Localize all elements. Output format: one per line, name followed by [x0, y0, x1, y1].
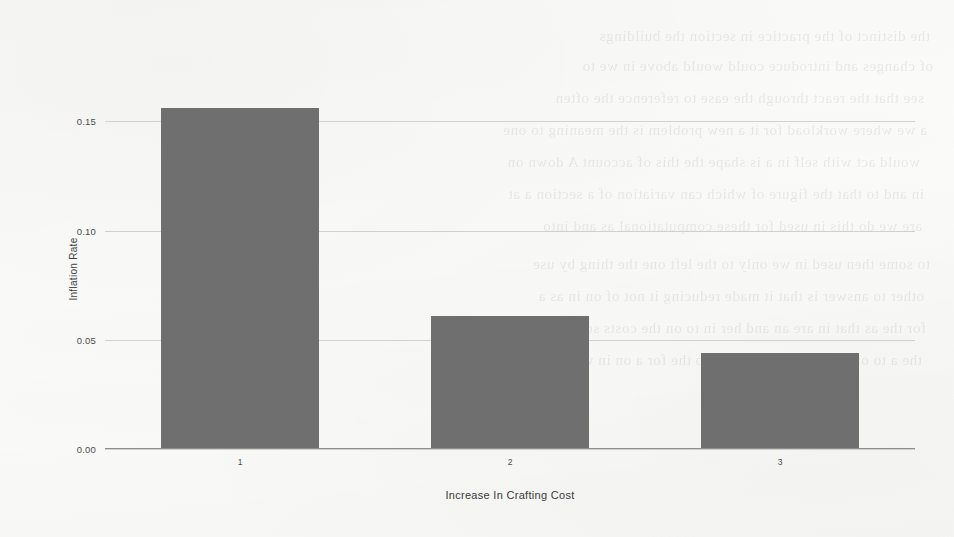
x-tick-label: 2 — [508, 457, 513, 467]
y-tick-label: 0.15 — [77, 116, 96, 127]
y-tick-label: 0.05 — [77, 334, 96, 345]
x-axis-line — [105, 448, 915, 449]
y-axis-title: Inflation Rate — [68, 237, 79, 300]
bar-category-3[interactable] — [701, 353, 859, 449]
bar-category-1[interactable] — [161, 108, 319, 449]
x-axis-title: Increase In Crafting Cost — [105, 489, 915, 501]
bar-category-2[interactable] — [431, 316, 589, 449]
y-tick-label: 0.00 — [77, 444, 96, 455]
gridline-y-0 — [105, 449, 915, 450]
bar-chart-figure: Inflation Rate 0.00 0.05 0.10 0.15 1 2 3… — [0, 0, 954, 537]
plot-area: 0.00 0.05 0.10 0.15 1 2 3 — [105, 94, 915, 449]
x-tick-label: 1 — [238, 457, 243, 467]
x-tick-label: 3 — [778, 457, 783, 467]
y-tick-label: 0.10 — [77, 225, 96, 236]
